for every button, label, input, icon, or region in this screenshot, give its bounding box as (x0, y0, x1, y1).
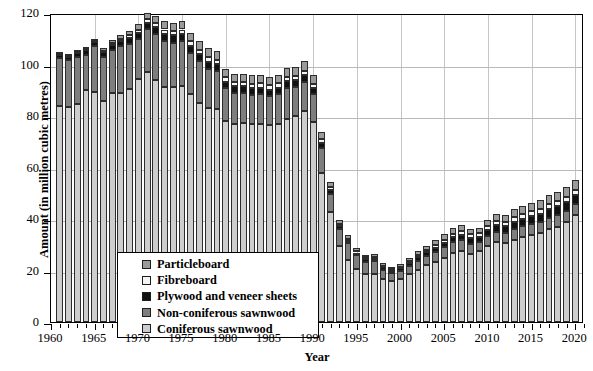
x-tick (112, 324, 113, 328)
bar[interactable] (493, 214, 500, 322)
bar-segment (537, 209, 544, 214)
bar[interactable] (528, 203, 535, 322)
bar[interactable] (441, 234, 448, 322)
bar-segment (467, 234, 474, 238)
bar-segment (222, 77, 229, 82)
bar[interactable] (511, 209, 518, 322)
stacked-bar-chart: Amount (in million cubic metres) Particl… (0, 0, 593, 371)
bar-segment (441, 258, 448, 322)
bar-segment (187, 46, 194, 53)
bar-segment (187, 41, 194, 46)
bar[interactable] (406, 258, 413, 322)
bar[interactable] (74, 51, 81, 322)
bar-segment (353, 269, 360, 322)
bar-segment (170, 23, 177, 31)
x-tick (462, 324, 463, 328)
bar-segment (554, 192, 561, 201)
x-tick (374, 324, 375, 328)
bar[interactable] (546, 195, 553, 322)
bar[interactable] (537, 200, 544, 322)
x-tick (549, 324, 550, 328)
y-tick (44, 118, 51, 119)
bar-segment (380, 270, 387, 279)
bar[interactable] (519, 206, 526, 322)
bar-segment (484, 236, 491, 246)
bar-segment (109, 93, 116, 322)
bar[interactable] (397, 264, 404, 322)
bar[interactable] (345, 235, 352, 322)
bar-segment (187, 33, 194, 42)
bar-segment (152, 34, 159, 80)
bar-segment (117, 39, 124, 41)
legend-swatch-icon (142, 308, 151, 317)
bar-segment (144, 29, 151, 71)
bar[interactable] (327, 182, 334, 322)
bar-segment (336, 229, 343, 246)
bar[interactable] (362, 255, 369, 322)
bar[interactable] (318, 132, 325, 322)
legend-item[interactable]: Particleboard (142, 256, 318, 272)
bar[interactable] (109, 40, 116, 322)
bar[interactable] (415, 251, 422, 322)
bar[interactable] (467, 229, 474, 322)
bar-segment (493, 232, 500, 242)
bar-segment (546, 209, 553, 217)
bar[interactable] (83, 47, 90, 322)
bar-segment (406, 261, 413, 263)
bar-segment (546, 218, 553, 230)
bar-segment (135, 24, 142, 30)
bar-segment (511, 217, 518, 222)
bar[interactable] (371, 254, 378, 322)
bar-segment (187, 53, 194, 94)
bar[interactable] (432, 240, 439, 322)
bar-segment (493, 221, 500, 225)
bar[interactable] (572, 180, 579, 322)
bar[interactable] (380, 263, 387, 322)
bar-segment (362, 274, 369, 322)
bar-segment (327, 187, 334, 190)
bar-segment (310, 94, 317, 122)
bar-segment (152, 27, 159, 34)
bar[interactable] (353, 248, 360, 322)
bar-segment (336, 220, 343, 224)
x-tick (322, 324, 323, 328)
bar[interactable] (336, 220, 343, 322)
bar[interactable] (458, 225, 465, 322)
bar[interactable] (65, 56, 72, 323)
bar-segment (476, 242, 483, 251)
bar[interactable] (91, 39, 98, 323)
bar-segment (380, 279, 387, 322)
x-tick-label: 2005 (421, 331, 465, 346)
legend-item[interactable]: Non-coniferous sawnwood (142, 305, 318, 321)
bar-segment (91, 39, 98, 41)
bar-segment (214, 64, 221, 71)
bar-segment (310, 88, 317, 94)
bar-segment (249, 88, 256, 94)
bar[interactable] (100, 48, 107, 322)
x-tick (51, 324, 52, 330)
bar[interactable] (423, 246, 430, 322)
bar-segment (74, 104, 81, 322)
bar[interactable] (476, 228, 483, 322)
bar[interactable] (484, 220, 491, 322)
bar-segment (109, 45, 116, 50)
bar-segment (292, 87, 299, 116)
bar-segment (345, 239, 352, 241)
bar[interactable] (56, 54, 63, 322)
bar-segment (135, 30, 142, 33)
bar-segment (135, 39, 142, 79)
bar[interactable] (450, 228, 457, 322)
bar-segment (196, 41, 203, 50)
bar-segment (240, 86, 247, 92)
bar[interactable] (502, 215, 509, 322)
legend-item[interactable]: Fibreboard (142, 272, 318, 288)
bar-segment (493, 225, 500, 231)
bar-segment (563, 202, 570, 211)
bar-segment (441, 247, 448, 257)
bar[interactable] (554, 192, 561, 322)
bar[interactable] (388, 267, 395, 322)
bar-segment (170, 35, 177, 42)
legend-item[interactable]: Plywood and veneer sheets (142, 288, 318, 304)
y-tick (44, 15, 51, 16)
bar[interactable] (563, 187, 570, 322)
